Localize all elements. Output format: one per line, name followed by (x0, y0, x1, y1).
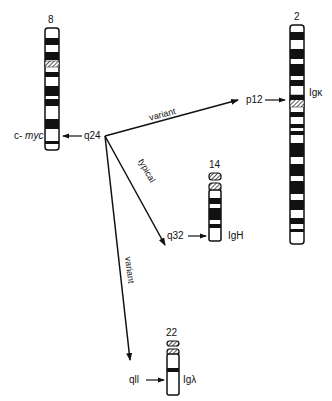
gene-prefix: c- (14, 130, 25, 141)
chromosome-22-number: 22 (166, 328, 177, 338)
chromosome-14-number: 14 (209, 160, 220, 170)
translocation-diagram (0, 0, 332, 401)
variant-arrow-to-chr22 (105, 136, 130, 360)
band-label-q11: qll (129, 375, 139, 385)
chromosome-8 (45, 28, 59, 150)
gene-label-igk: Igκ (309, 88, 322, 98)
gene-name: myc (25, 130, 43, 141)
band-label-q24: q24 (84, 131, 101, 141)
band-label-p12: p12 (246, 95, 263, 105)
chromosome-8-number: 8 (48, 15, 54, 25)
chromosome-14 (209, 173, 221, 241)
band-label-q32: q32 (167, 231, 184, 241)
gene-label-igl: Igλ (183, 375, 196, 385)
gene-label-c-myc: c- myc (14, 131, 43, 141)
variant-arrow-to-chr2 (105, 100, 238, 136)
chromosome-2-number: 2 (294, 12, 300, 22)
gene-label-igh: IgH (228, 231, 244, 241)
chromosome-22 (167, 341, 179, 395)
chromosome-2 (290, 25, 304, 244)
typical-arrow-to-chr14 (105, 136, 165, 245)
